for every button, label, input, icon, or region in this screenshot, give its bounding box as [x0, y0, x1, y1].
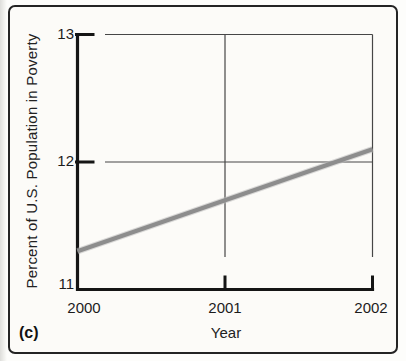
y-tick-label-11: 11	[40, 274, 74, 294]
x-tick-label-2000: 2000	[52, 299, 116, 317]
y-axis-label: Percent of U.S. Population in Poverty	[23, 33, 40, 288]
y-tick-label-13: 13	[40, 24, 74, 44]
y-tick-label-12: 12	[40, 151, 74, 171]
x-axis-label: Year	[196, 324, 256, 341]
x-tick-label-2001: 2001	[193, 299, 257, 317]
x-tick-label-2002: 2002	[339, 299, 403, 317]
panel-label: (c)	[19, 324, 39, 342]
